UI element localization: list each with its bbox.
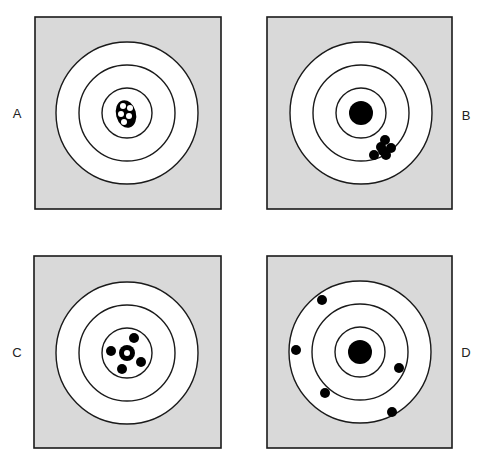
shot-hole [387, 407, 397, 417]
shot-hole [136, 357, 146, 367]
target-panel-b [267, 17, 452, 209]
cluster-hole [126, 113, 132, 119]
label-b: B [462, 109, 471, 122]
target-panel-d [267, 256, 452, 448]
cluster-hole [121, 119, 127, 125]
shot-hole [369, 150, 379, 160]
bullseye [348, 340, 372, 364]
shot-hole [106, 346, 116, 356]
shot-hole [320, 388, 330, 398]
label-a: A [13, 107, 22, 120]
shot-hole [129, 333, 139, 343]
center-hole [124, 350, 130, 356]
target-panel-a [35, 17, 221, 209]
bullseye [349, 101, 373, 125]
shot-hole [291, 345, 301, 355]
cluster-hole [127, 105, 133, 111]
cluster-hole [120, 103, 126, 109]
label-d: D [461, 346, 470, 359]
target-panel-c [34, 256, 221, 448]
shot-hole [317, 295, 327, 305]
label-c: C [12, 346, 21, 359]
shot-hole [117, 364, 127, 374]
shot-hole [394, 363, 404, 373]
cluster-hole [118, 111, 124, 117]
shot-hole [378, 146, 388, 156]
targets-canvas [0, 0, 483, 461]
